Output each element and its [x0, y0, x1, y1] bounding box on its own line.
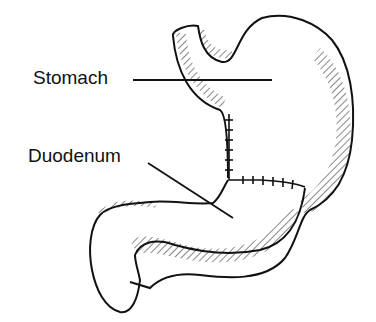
suture-line: [225, 114, 305, 189]
stomach-label: Stomach: [33, 68, 108, 87]
anatomy-diagram: Stomach Duodenum: [0, 0, 376, 322]
duodenum-leader-line: [148, 163, 233, 218]
duodenum-shape: [90, 180, 305, 312]
duodenum-label: Duodenum: [28, 146, 121, 165]
